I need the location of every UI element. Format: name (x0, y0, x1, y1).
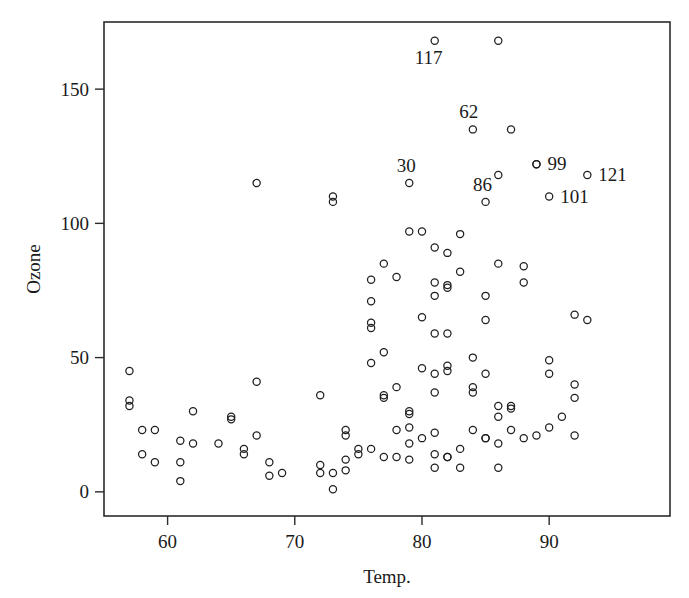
y-tick-label-100: 100 (61, 213, 90, 234)
data-point (507, 126, 514, 133)
x-tick-label-80: 80 (412, 531, 431, 552)
data-point (317, 469, 324, 476)
point-label-30: 30 (397, 155, 416, 176)
annotated-point-101 (546, 193, 553, 200)
data-point (457, 445, 464, 452)
y-tick-label-0: 0 (80, 481, 90, 502)
data-point (418, 435, 425, 442)
plot-border (104, 22, 670, 516)
data-point (533, 432, 540, 439)
data-point (520, 435, 527, 442)
data-point (457, 464, 464, 471)
data-point (278, 469, 285, 476)
data-point (368, 298, 375, 305)
annotated-point-86 (482, 198, 489, 205)
data-point (355, 451, 362, 458)
data-point (546, 370, 553, 377)
data-point (558, 413, 565, 420)
data-point (584, 316, 591, 323)
data-point (444, 249, 451, 256)
data-point (151, 426, 158, 433)
series-0 (126, 37, 591, 493)
scatter-plot-figure: 05010015060708090 11762309986121101 Temp… (0, 0, 689, 598)
data-point (342, 432, 349, 439)
data-point (406, 228, 413, 235)
data-point (431, 464, 438, 471)
plot-canvas: 05010015060708090 11762309986121101 Temp… (0, 0, 689, 598)
x-axis-title: Temp. (363, 566, 411, 587)
data-point (406, 424, 413, 431)
annotated-point-30 (406, 179, 413, 186)
data-point (418, 365, 425, 372)
axis-tick-labels: 05010015060708090 (61, 79, 559, 552)
data-point (380, 349, 387, 356)
data-point (317, 461, 324, 468)
data-point (329, 469, 336, 476)
data-point (393, 273, 400, 280)
data-point (266, 472, 273, 479)
data-point (177, 478, 184, 485)
x-tick-label-90: 90 (540, 531, 559, 552)
data-point (418, 228, 425, 235)
data-point (431, 330, 438, 337)
y-axis-title: Ozone (23, 244, 44, 294)
axis-titles: Temp.Ozone (23, 244, 411, 587)
data-point (342, 456, 349, 463)
data-point (329, 486, 336, 493)
y-tick-label-50: 50 (70, 347, 89, 368)
data-point (469, 384, 476, 391)
data-point (253, 432, 260, 439)
data-point (507, 426, 514, 433)
data-point (482, 370, 489, 377)
data-point (444, 330, 451, 337)
data-point (368, 445, 375, 452)
data-point (431, 370, 438, 377)
data-point (431, 244, 438, 251)
data-points (126, 37, 591, 493)
data-point (482, 435, 489, 442)
data-point (520, 279, 527, 286)
annotated-point-121 (584, 171, 591, 178)
data-point (177, 459, 184, 466)
data-point (495, 464, 502, 471)
data-point (406, 440, 413, 447)
data-point (482, 292, 489, 299)
annotated-point-99 (533, 161, 540, 168)
data-point (266, 459, 273, 466)
data-point (571, 311, 578, 318)
data-point (444, 362, 451, 369)
data-point (380, 260, 387, 267)
data-point (406, 456, 413, 463)
data-point (457, 231, 464, 238)
data-point (571, 394, 578, 401)
data-point (444, 453, 451, 460)
data-point (189, 440, 196, 447)
data-point (457, 268, 464, 275)
point-label-101: 101 (560, 186, 589, 207)
data-point (151, 459, 158, 466)
data-point (495, 260, 502, 267)
data-point (495, 402, 502, 409)
data-point (139, 426, 146, 433)
data-point (329, 193, 336, 200)
data-point (495, 171, 502, 178)
plot-frame (104, 22, 670, 516)
data-point (495, 37, 502, 44)
data-point (253, 179, 260, 186)
data-point (253, 378, 260, 385)
data-point (431, 429, 438, 436)
data-point (431, 292, 438, 299)
data-point (546, 357, 553, 364)
point-label-86: 86 (473, 174, 492, 195)
point-label-117: 117 (415, 47, 443, 68)
data-point (380, 453, 387, 460)
x-tick-label-70: 70 (285, 531, 304, 552)
data-point (469, 426, 476, 433)
point-label-99: 99 (547, 153, 566, 174)
data-point (546, 424, 553, 431)
annotated-point-62 (469, 126, 476, 133)
data-point (317, 392, 324, 399)
axis-ticks (95, 89, 549, 525)
annotated-point-117 (431, 37, 438, 44)
data-point (431, 279, 438, 286)
